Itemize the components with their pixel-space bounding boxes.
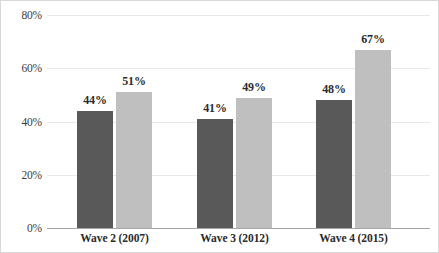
bar-value-label: 49% xyxy=(242,80,265,95)
gridline-baseline-0: 0% xyxy=(47,228,430,229)
bar-chart: 80% 60% 40% 20% 0% 44% 51% xyxy=(0,0,439,253)
bar-group-wave-4: 48% 67% xyxy=(316,15,391,228)
x-axis-labels: Wave 2 (2007) Wave 3 (2012) Wave 4 (2015… xyxy=(47,232,430,252)
bars-layer: 44% 51% 41% 49% 48% 67% xyxy=(47,15,430,228)
bar-value-label: 51% xyxy=(122,74,145,89)
bar-wave-4-dark[interactable]: 48% xyxy=(316,100,352,228)
bar-group-wave-3: 41% 49% xyxy=(197,15,272,228)
bar-value-label: 44% xyxy=(83,93,106,108)
bar-wave-2-dark[interactable]: 44% xyxy=(77,111,113,228)
bar-wave-4-light[interactable]: 67% xyxy=(355,50,391,228)
x-axis-tick-label-wave-2: Wave 2 (2007) xyxy=(77,232,152,244)
bar-wave-3-dark[interactable]: 41% xyxy=(197,119,233,228)
bar-group-wave-2: 44% 51% xyxy=(77,15,152,228)
x-axis-tick-label-wave-3: Wave 3 (2012) xyxy=(197,232,272,244)
bar-value-label: 67% xyxy=(361,32,384,47)
bar-wave-2-light[interactable]: 51% xyxy=(116,92,152,228)
bar-value-label: 48% xyxy=(322,82,345,97)
x-axis-tick-label-wave-4: Wave 4 (2015) xyxy=(316,232,391,244)
bar-wave-3-light[interactable]: 49% xyxy=(236,98,272,228)
bar-value-label: 41% xyxy=(203,101,226,116)
plot-area: 80% 60% 40% 20% 0% 44% 51% xyxy=(47,15,430,228)
